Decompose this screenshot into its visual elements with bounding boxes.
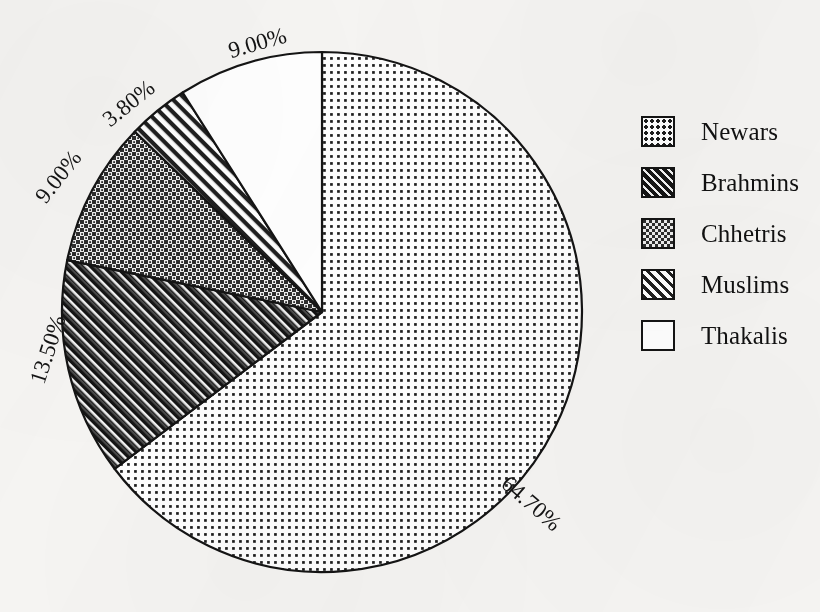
legend-label-thakalis: Thakalis bbox=[701, 323, 788, 348]
legend-label-brahmins: Brahmins bbox=[701, 170, 799, 195]
legend-swatch-muslims bbox=[641, 269, 675, 300]
pie-label-newars: 64.70% bbox=[496, 471, 566, 536]
legend-label-chhetris: Chhetris bbox=[701, 221, 787, 246]
legend-item-brahmins[interactable]: Brahmins bbox=[641, 157, 799, 208]
legend-item-chhetris[interactable]: Chhetris bbox=[641, 208, 799, 259]
legend-swatch-brahmins bbox=[641, 167, 675, 198]
legend-swatch-chhetris bbox=[641, 218, 675, 249]
legend-item-muslims[interactable]: Muslims bbox=[641, 259, 799, 310]
chart-legend: Newars Brahmins Chhetris Muslims Thakali… bbox=[641, 106, 799, 361]
legend-item-newars[interactable]: Newars bbox=[641, 106, 799, 157]
legend-label-newars: Newars bbox=[701, 119, 778, 144]
pie-label-chhetris: 9.00% bbox=[30, 146, 86, 208]
legend-swatch-newars bbox=[641, 116, 675, 147]
legend-label-muslims: Muslims bbox=[701, 272, 789, 297]
pie-chart-figure: 64.70%13.50%9.00%3.80%9.00% Newars Brahm… bbox=[0, 0, 820, 612]
legend-item-thakalis[interactable]: Thakalis bbox=[641, 310, 799, 361]
legend-swatch-thakalis bbox=[641, 320, 675, 351]
